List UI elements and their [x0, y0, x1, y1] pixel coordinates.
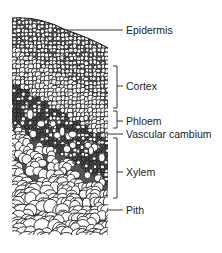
label-epidermis: Epidermis [126, 24, 173, 36]
label-cortex: Cortex [126, 80, 157, 92]
cell-mesh [0, 0, 222, 253]
stem-cross-section-diagram: Epidermis Cortex Phloem Vascular cambium… [0, 0, 222, 253]
label-xylem: Xylem [126, 166, 155, 178]
tissue-illustration [0, 0, 222, 253]
label-pith: Pith [126, 204, 144, 216]
label-phloem: Phloem [126, 115, 162, 127]
label-vascular-cambium: Vascular cambium [126, 128, 212, 140]
